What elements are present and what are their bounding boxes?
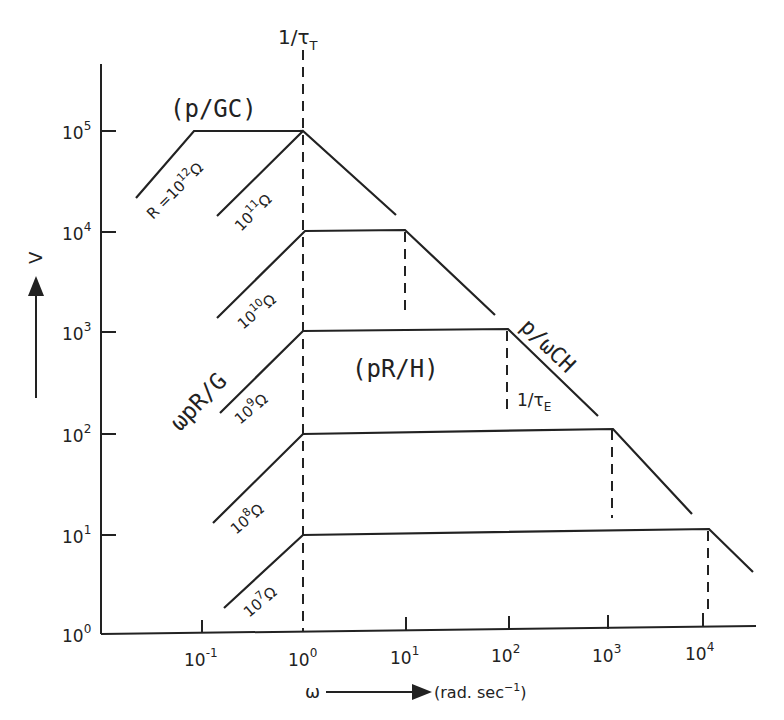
curve-r12	[136, 131, 303, 198]
svg-text:102: 102	[491, 642, 520, 666]
x-axis-title: ω (rad. sec−1)	[305, 681, 526, 702]
tau-e-label: 1/τE	[517, 390, 551, 414]
svg-text:100: 100	[288, 646, 317, 670]
svg-text:104: 104	[62, 220, 91, 244]
label-r7: 107Ω	[238, 581, 280, 621]
svg-text:103: 103	[592, 642, 621, 666]
svg-text:101: 101	[62, 523, 91, 547]
y-axis-label: V	[25, 251, 46, 264]
curves	[136, 131, 753, 608]
wprg-annotation: ωpR/G	[165, 368, 232, 436]
y-ticks	[101, 131, 116, 535]
prh-annotation: (pR/H)	[352, 355, 439, 383]
label-r11: 1011Ω	[229, 188, 275, 234]
svg-text:103: 103	[62, 320, 91, 344]
tau-t-label: 1/τT	[278, 25, 318, 53]
axes	[101, 64, 756, 634]
x-axis-label: ω	[305, 681, 320, 702]
reference-lines	[303, 50, 708, 632]
label-r9: 109Ω	[229, 388, 271, 428]
svg-text:102: 102	[62, 422, 91, 446]
y-tick-labels: 105 104 103 102 101 100	[62, 119, 91, 646]
label-r12: R =1012Ω	[141, 157, 207, 223]
pgc-annotation: (p/GC)	[170, 95, 257, 123]
svg-text:105: 105	[62, 119, 91, 143]
curve-r8	[213, 429, 692, 523]
x-axis-line	[101, 626, 756, 634]
bode-chart: 105 104 103 102 101 100 10-1 100 101 102…	[0, 0, 784, 720]
svg-text:104: 104	[685, 640, 714, 664]
y-axis-title: V	[25, 251, 46, 398]
svg-text:100: 100	[62, 622, 91, 646]
svg-text:10-1: 10-1	[184, 646, 218, 670]
curve-r11	[217, 131, 396, 216]
x-tick-labels: 10-1 100 101 102 103 104	[184, 640, 714, 670]
x-axis-unit: (rad. sec−1)	[434, 681, 526, 702]
svg-text:101: 101	[390, 644, 419, 668]
